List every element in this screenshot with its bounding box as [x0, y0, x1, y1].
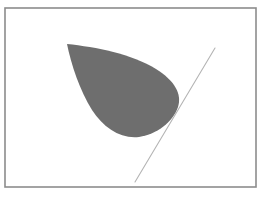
figure-canvas [0, 0, 265, 197]
figure-container [0, 0, 265, 197]
